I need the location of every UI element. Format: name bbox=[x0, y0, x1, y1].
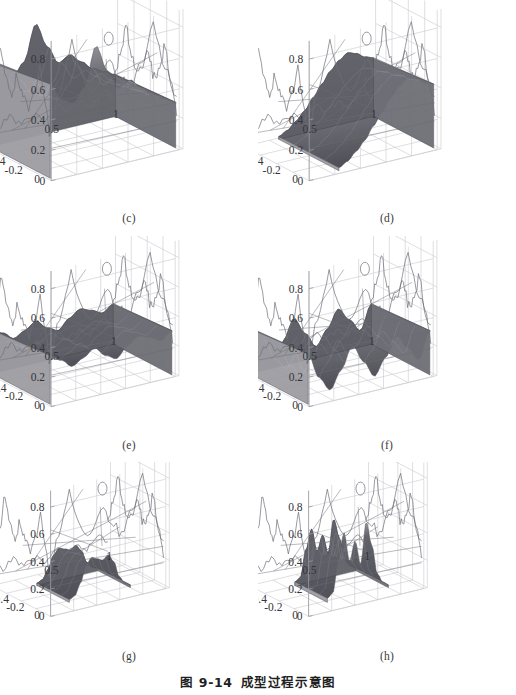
y-tick-label: -0.4 bbox=[258, 155, 264, 167]
x-tick-label: 1 bbox=[106, 550, 112, 562]
x-tick-label: 0.5 bbox=[302, 564, 317, 576]
panel-d: 0.80.60.40.200-0.2-0.4-0.60.51 (d) bbox=[258, 0, 516, 236]
z-tick-label: 0.8 bbox=[289, 283, 304, 295]
panel-f-label: (f) bbox=[258, 439, 516, 451]
y-tick-label: -0.2 bbox=[264, 601, 282, 613]
panel-h: 0.80.60.40.200-0.2-0.4-0.60.51 (h) bbox=[258, 462, 516, 672]
panel-g-label: (g) bbox=[0, 650, 258, 662]
z-tick-label: 0.2 bbox=[30, 583, 45, 595]
x-tick-label: 0.5 bbox=[45, 350, 60, 362]
panel-h-label: (h) bbox=[258, 650, 516, 662]
y-tick-label: -0.4 bbox=[258, 382, 265, 394]
z-tick-label: 0.2 bbox=[288, 583, 303, 595]
plot-g: 0.80.60.40.200-0.2-0.4-0.60.51 bbox=[0, 462, 258, 672]
z-tick-label: 0.4 bbox=[289, 342, 304, 354]
surface-plot-d-svg: 0.80.60.40.200-0.2-0.4-0.60.51 bbox=[258, 0, 516, 236]
panel-e-label: (e) bbox=[0, 439, 258, 451]
x-tick-label: 1 bbox=[369, 335, 375, 347]
z-tick-label: 0.4 bbox=[30, 556, 45, 568]
z-tick-label: 0.2 bbox=[31, 371, 46, 383]
z-tick-label: 0.2 bbox=[289, 371, 304, 383]
surface-plot-f-svg: 0.80.60.40.200-0.2-0.4-0.60.51 bbox=[258, 236, 516, 462]
z-tick-label: 0.8 bbox=[288, 501, 303, 513]
y-tick-label: -0.2 bbox=[6, 601, 24, 613]
figure-title: 成型过程示意图 bbox=[241, 675, 336, 690]
panel-f: 0.80.60.40.200-0.2-0.4-0.60.51 (f) bbox=[258, 236, 516, 462]
x-tick-label: 1 bbox=[113, 108, 119, 120]
z-tick-label: 0.4 bbox=[31, 342, 46, 354]
y-tick-label: 0 bbox=[34, 173, 40, 185]
surface-plot-g-svg: 0.80.60.40.200-0.2-0.4-0.60.51 bbox=[0, 462, 258, 672]
z-tick-label: 0.4 bbox=[31, 114, 46, 126]
panel-g: 0.80.60.40.200-0.2-0.4-0.60.51 (g) bbox=[0, 462, 258, 672]
y-tick-label: -0.4 bbox=[258, 593, 267, 605]
z-tick-label: 0.6 bbox=[289, 84, 304, 96]
plot-f: 0.80.60.40.200-0.2-0.4-0.60.51 bbox=[258, 236, 516, 462]
surface-plot-e-svg: 0.80.60.40.200-0.2-0.4-0.60.51 bbox=[0, 236, 258, 462]
plot-d: 0.80.60.40.200-0.2-0.4-0.60.51 bbox=[258, 0, 516, 236]
y-tick-label: 0 bbox=[34, 399, 40, 411]
y-tick-label: 0 bbox=[292, 609, 298, 621]
y-tick-label: 0 bbox=[292, 173, 298, 185]
z-tick-label: 0.6 bbox=[288, 528, 303, 540]
plot-e: 0.80.60.40.200-0.2-0.4-0.60.51 bbox=[0, 236, 258, 462]
z-tick-label: 0.6 bbox=[30, 528, 45, 540]
x-tick-label: 0.5 bbox=[303, 350, 318, 362]
z-tick-label: 0.6 bbox=[31, 84, 46, 96]
surface-plot-c-svg: 0.80.60.40.200-0.2-0.4-0.60.51 bbox=[0, 0, 258, 236]
z-tick-label: 0 bbox=[297, 175, 303, 187]
figure-caption: 图 9-14成型过程示意图 bbox=[0, 672, 516, 691]
figure-number: 图 9-14 bbox=[180, 675, 232, 690]
y-tick-label: -0.2 bbox=[263, 390, 281, 402]
z-tick-label: 0.4 bbox=[288, 556, 303, 568]
z-tick-label: 0 bbox=[39, 175, 45, 187]
grid-planes bbox=[0, 462, 169, 616]
figure-sheet: 0.80.60.40.200-0.2-0.4-0.60.51 (c) 0.80.… bbox=[0, 0, 516, 695]
y-tick-label: -0.4 bbox=[0, 155, 6, 167]
z-tick-label: 0.4 bbox=[289, 114, 304, 126]
x-tick-label: 0.5 bbox=[303, 123, 318, 135]
x-tick-label: 0.5 bbox=[44, 564, 59, 576]
z-tick-label: 0.8 bbox=[31, 283, 46, 295]
z-tick-label: 0 bbox=[39, 401, 45, 413]
y-tick-label: -0.2 bbox=[263, 164, 281, 176]
z-tick-label: 0.8 bbox=[31, 53, 46, 65]
plot-h: 0.80.60.40.200-0.2-0.4-0.60.51 bbox=[258, 462, 516, 672]
panel-grid: 0.80.60.40.200-0.2-0.4-0.60.51 (c) 0.80.… bbox=[0, 0, 516, 672]
y-tick-label: -0.2 bbox=[5, 390, 23, 402]
panel-e: 0.80.60.40.200-0.2-0.4-0.60.51 (e) bbox=[0, 236, 258, 462]
panel-d-label: (d) bbox=[258, 212, 516, 224]
x-tick-label: 1 bbox=[371, 108, 377, 120]
z-tick-label: 0.8 bbox=[289, 53, 304, 65]
z-tick-label: 0.6 bbox=[31, 312, 46, 324]
z-tick-label: 0.6 bbox=[289, 312, 304, 324]
panel-c-label: (c) bbox=[0, 212, 258, 224]
y-tick-label: -0.4 bbox=[0, 382, 7, 394]
x-tick-label: 1 bbox=[111, 335, 117, 347]
z-tick-label: 0 bbox=[297, 401, 303, 413]
x-tick-label: 0.5 bbox=[45, 123, 60, 135]
y-tick-label: -0.2 bbox=[5, 164, 23, 176]
plot-c: 0.80.60.40.200-0.2-0.4-0.60.51 bbox=[0, 0, 258, 236]
y-tick-label: -0.4 bbox=[0, 593, 9, 605]
surface-plot-h-svg: 0.80.60.40.200-0.2-0.4-0.60.51 bbox=[258, 462, 516, 672]
y-tick-label: 0 bbox=[292, 399, 298, 411]
x-tick-label: 1 bbox=[364, 550, 370, 562]
panel-c: 0.80.60.40.200-0.2-0.4-0.60.51 (c) bbox=[0, 0, 258, 236]
z-tick-label: 0.2 bbox=[289, 144, 304, 156]
y-tick-label: 0 bbox=[34, 609, 40, 621]
z-tick-label: 0.2 bbox=[31, 144, 46, 156]
z-tick-label: 0.8 bbox=[30, 501, 45, 513]
